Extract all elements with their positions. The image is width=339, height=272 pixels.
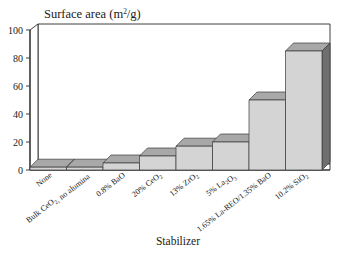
y-tick-label: 60 (13, 81, 23, 92)
bar-front-face (176, 146, 213, 170)
y-tick-label: 0 (18, 165, 23, 176)
bar-front-face (213, 142, 250, 170)
y-tick-label: 100 (8, 25, 23, 36)
bar-chart: 0 20 40 60 80 100 (0, 0, 339, 272)
chart-title-main: Surface area (m (44, 7, 123, 21)
chart-title-tail: /g) (127, 7, 141, 21)
bar-front-face (249, 100, 286, 170)
chart-canvas: 0 20 40 60 80 100 (0, 0, 339, 272)
bar-front-face (30, 167, 67, 170)
bar-front-face (67, 167, 104, 170)
bar (286, 43, 331, 170)
y-tick-label: 40 (13, 109, 23, 120)
bar-side-face (322, 43, 330, 170)
y-tick-label: 20 (13, 137, 23, 148)
bar-front-face (103, 163, 140, 170)
y-tick-label: 80 (13, 53, 23, 64)
x-axis-title: Stabilizer (156, 235, 200, 247)
bar-front-face (286, 51, 323, 170)
chart-title-text: Surface area (m2/g) (44, 7, 141, 21)
bar-front-face (140, 156, 177, 170)
chart-title: Surface area (m2/g) (44, 7, 141, 21)
